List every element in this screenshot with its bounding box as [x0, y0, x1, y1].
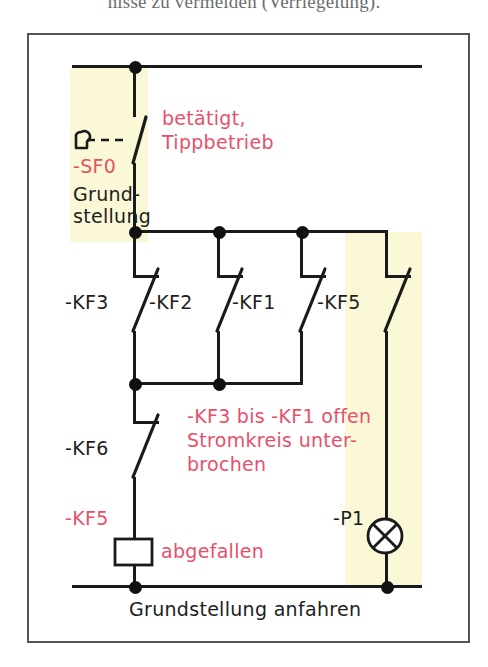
annotation-branch-line1: -KF3 bis -KF1 offen: [187, 405, 371, 427]
diagram-bottom-title: Grundstellung anfahren: [129, 598, 361, 620]
label-kf5-contact-tag: -KF5: [317, 291, 361, 313]
page-caption-top: nisse zu vermeiden (Verriegelung).: [0, 0, 488, 17]
sf0-pushbutton-actuator-icon: [76, 131, 129, 148]
junction-dot-tie-kf3: [129, 378, 142, 391]
annotation-branch-line3: brochen: [187, 453, 266, 475]
label-kf6-tag: -KF6: [65, 437, 109, 459]
junction-dot-top-rail: [129, 61, 142, 74]
kf6-contact-blade: [133, 415, 158, 477]
label-sf0-state-line1: Grund-: [73, 183, 140, 205]
annotation-sf0-line1: betätigt,: [162, 107, 246, 129]
annotation-sf0-line2: Tippbetrieb: [162, 131, 274, 153]
junction-dot-bus-kf1: [296, 226, 309, 239]
p1-signal-lamp-icon: [368, 519, 402, 553]
junction-dot-bottom-coil: [129, 581, 142, 594]
annotation-kf5-coil: abgefallen: [161, 540, 264, 562]
junction-dot-bottom-lamp: [381, 581, 394, 594]
label-p1-tag: -P1: [333, 507, 364, 529]
circuit-diagram-frame: -SF0 Grund- stellung betätigt, Tippbetri…: [27, 33, 470, 643]
circuit-canvas: -SF0 Grund- stellung betätigt, Tippbetri…: [29, 35, 468, 641]
kf5-relay-coil-symbol: [115, 539, 152, 565]
annotation-branch-line2: Stromkreis unter-: [187, 429, 357, 451]
label-kf3-tag: -KF3: [65, 291, 109, 313]
sf0-contact-blade: [133, 117, 146, 163]
label-kf2-tag: -KF2: [149, 291, 193, 313]
label-kf1-tag: -KF1: [232, 291, 276, 313]
junction-dot-tie-kf2: [213, 378, 226, 391]
label-sf0-state-line2: stellung: [73, 205, 151, 227]
junction-dot-bus-kf3: [129, 226, 142, 239]
label-sf0-tag: -SF0: [73, 155, 116, 177]
kf5-contact-blade: [385, 269, 410, 331]
label-kf5-coil-tag: -KF5: [65, 507, 109, 529]
junction-dot-bus-kf2: [213, 226, 226, 239]
